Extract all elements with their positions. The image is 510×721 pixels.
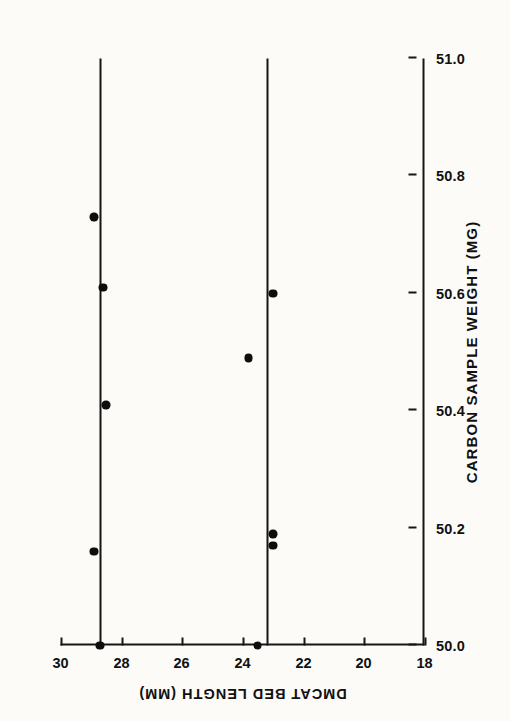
data-point	[268, 289, 276, 297]
x-tick	[408, 643, 416, 645]
x-tick	[408, 526, 416, 528]
figure-rotated-container: 50.050.250.450.650.851.0 30282624222018 …	[0, 0, 510, 721]
x-tick	[408, 173, 416, 175]
data-point	[244, 353, 252, 361]
y-tick	[121, 637, 123, 645]
y-tick-label: 28	[113, 655, 129, 671]
x-axis-line	[422, 58, 424, 645]
y-tick	[242, 637, 244, 645]
y-axis-title: DMCAT BED LENGTH (MM)	[60, 685, 424, 701]
x-tick	[408, 56, 416, 58]
x-axis-title: CARBON SAMPLE WEIGHT (MG)	[462, 58, 479, 645]
mean-line	[266, 58, 268, 645]
x-tick-label: 50.4	[435, 402, 464, 418]
x-tick-label: 50.8	[435, 167, 464, 183]
data-point	[268, 541, 276, 549]
mean-line	[99, 58, 101, 645]
y-tick-label: 30	[52, 655, 68, 671]
y-tick	[303, 637, 305, 645]
y-tick-label: 18	[416, 655, 432, 671]
x-tick-label: 50.2	[435, 520, 464, 536]
x-tick	[408, 408, 416, 410]
x-tick-label: 50.6	[435, 285, 464, 301]
y-tick	[60, 637, 62, 645]
y-tick-label: 22	[295, 655, 311, 671]
x-tick-label: 50.0	[435, 637, 464, 653]
data-point	[95, 641, 103, 649]
data-point	[98, 283, 106, 291]
data-point	[268, 529, 276, 537]
y-tick	[181, 637, 183, 645]
x-tick	[408, 291, 416, 293]
y-tick-label: 26	[173, 655, 189, 671]
y-tick-label: 20	[355, 655, 371, 671]
scatter-plot-area: 50.050.250.450.650.851.0 30282624222018	[60, 58, 424, 645]
y-tick-label: 24	[234, 655, 250, 671]
y-tick	[363, 637, 365, 645]
data-point	[253, 641, 261, 649]
data-point	[89, 212, 97, 220]
y-tick	[424, 637, 426, 645]
data-point	[89, 547, 97, 555]
x-tick-label: 51.0	[435, 50, 464, 66]
data-point	[101, 400, 109, 408]
